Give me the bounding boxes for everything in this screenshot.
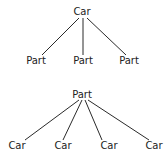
node-car-4: Car	[145, 140, 163, 151]
node-part-2: Part	[73, 55, 93, 66]
edge-part-car-3	[85, 100, 102, 140]
tree-car-to-parts: Car Part Part Part	[26, 6, 139, 66]
node-root-part: Part	[72, 89, 92, 100]
node-car-2: Car	[54, 140, 72, 151]
edge-car-part-1	[42, 18, 79, 55]
edge-car-part-3	[87, 18, 126, 55]
diagram-canvas: Car Part Part Part Part Car Car Car Car	[0, 0, 165, 157]
node-car-3: Car	[100, 140, 118, 151]
tree-part-to-cars: Part Car Car Car Car	[8, 89, 163, 151]
node-part-1: Part	[26, 55, 46, 66]
edge-part-car-2	[63, 100, 82, 140]
node-part-3: Part	[119, 55, 139, 66]
edge-part-car-4	[88, 100, 149, 140]
node-car-1: Car	[8, 140, 26, 151]
node-root-car: Car	[73, 6, 91, 17]
edge-part-car-1	[25, 100, 79, 140]
